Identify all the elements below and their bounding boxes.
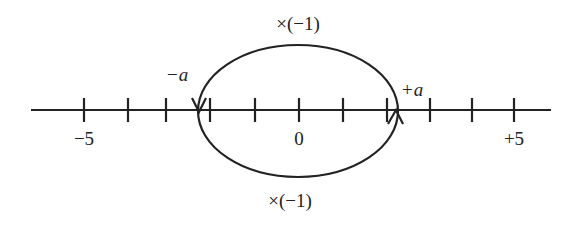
bottom-label: ×(−1) xyxy=(268,190,312,212)
tick-label: −5 xyxy=(74,128,94,149)
top-label: ×(−1) xyxy=(276,13,320,35)
arrow-up-icon xyxy=(388,110,403,124)
diagram-canvas: −50+5 ×(−1) ×(−1) −a +a xyxy=(0,0,571,231)
number-line-diagram: −50+5 ×(−1) ×(−1) −a +a xyxy=(0,0,571,231)
axis-ticks: −50+5 xyxy=(74,98,524,149)
tick-label: 0 xyxy=(294,128,304,149)
minus-a-label: −a xyxy=(166,64,188,85)
plus-a-label: +a xyxy=(401,79,423,100)
tick-label: +5 xyxy=(504,128,524,149)
